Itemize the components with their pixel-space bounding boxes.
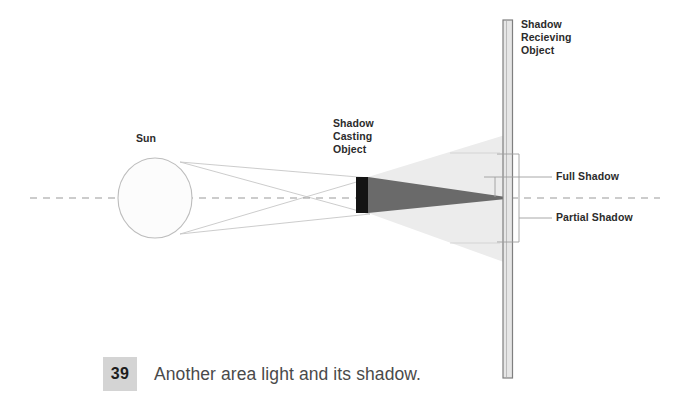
light-ray-bottom-to-bottom: [180, 214, 370, 234]
figure-page: Sun Shadow Casting Object Shadow Recievi…: [0, 0, 676, 409]
figure-caption: 39 Another area light and its shadow.: [103, 357, 421, 391]
label-sun: Sun: [136, 132, 156, 145]
figure-caption-text: Another area light and its shadow.: [154, 364, 421, 385]
figure-number-badge: 39: [103, 357, 137, 391]
label-shadow-casting-object: Shadow Casting Object: [333, 117, 374, 156]
label-shadow-receiving-object: Shadow Recieving Object: [521, 18, 572, 57]
label-full-shadow: Full Shadow: [556, 170, 619, 183]
label-partial-shadow: Partial Shadow: [556, 211, 633, 224]
shadow-receiving-object-shape: [503, 20, 513, 378]
sun-shape: [118, 158, 192, 238]
shadow-diagram-illustration: [0, 0, 676, 409]
shadow-casting-object-shape: [356, 177, 368, 213]
light-ray-group: [180, 162, 370, 234]
